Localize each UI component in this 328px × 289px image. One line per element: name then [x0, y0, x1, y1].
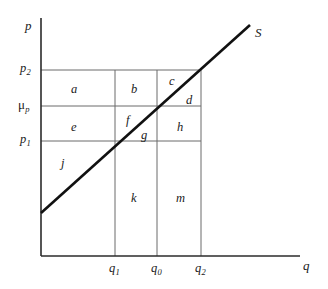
y-tick-mu-p: μp — [18, 98, 29, 111]
y-tick-mu-base: μ — [18, 97, 25, 112]
y-tick-mu-sub: p — [25, 104, 29, 114]
region-label-j: j — [61, 157, 64, 170]
x-tick-q2: q2 — [195, 262, 206, 275]
y-tick-p2-base: p — [20, 61, 26, 75]
x-tick-q2-sub: 2 — [202, 267, 206, 277]
region-label-g: g — [141, 129, 147, 142]
supply-curve-line — [41, 25, 250, 213]
x-tick-q0: q0 — [151, 262, 162, 275]
region-label-k: k — [131, 192, 137, 205]
y-tick-p2-sub: 2 — [27, 67, 31, 77]
y-axis-label: p — [25, 19, 32, 32]
x-tick-q0-sub: 0 — [158, 267, 162, 277]
region-label-m: m — [176, 192, 185, 205]
y-tick-p2: p2 — [20, 62, 31, 75]
x-tick-q1-base: q — [109, 261, 115, 275]
region-label-c: c — [169, 75, 175, 88]
y-tick-p1: p1 — [20, 133, 31, 146]
supply-curve-label: S — [255, 26, 262, 39]
region-label-h: h — [177, 121, 183, 134]
x-tick-q2-base: q — [195, 261, 201, 275]
supply-curve-diagram: p q p2 μp p1 q1 q0 q2 S a b c d e f g h … — [0, 0, 328, 289]
region-label-e: e — [71, 121, 77, 134]
region-label-b: b — [131, 83, 137, 96]
x-tick-q0-base: q — [151, 261, 157, 275]
x-tick-q1: q1 — [109, 262, 120, 275]
region-label-d: d — [186, 94, 192, 107]
region-label-a: a — [71, 83, 77, 96]
plot-canvas — [0, 0, 328, 289]
y-tick-p1-sub: 1 — [27, 138, 31, 148]
region-label-f: f — [126, 114, 129, 127]
x-tick-q1-sub: 1 — [116, 267, 120, 277]
x-axis-label: q — [303, 259, 310, 272]
y-tick-p1-base: p — [20, 132, 26, 146]
